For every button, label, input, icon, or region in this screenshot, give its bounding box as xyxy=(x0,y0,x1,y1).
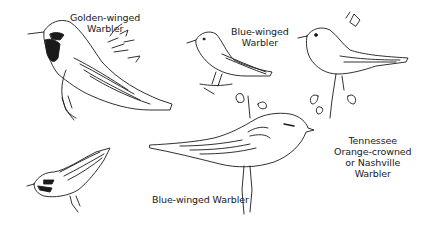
warbler-illustration-plate: Golden-winged Warbler Blue-winged Warble… xyxy=(0,0,434,243)
label-line: Warbler xyxy=(70,23,140,34)
label-line: Warbler xyxy=(231,37,289,48)
label-line: Golden-winged xyxy=(70,12,140,23)
tennessee-warbler-label: Tennessee Orange-crowned or Nashville Wa… xyxy=(334,135,412,179)
blue-winged-warbler-bottom-label: Blue-winged Warbler xyxy=(152,194,249,205)
label-line: Blue-winged xyxy=(231,26,289,37)
warbler-line-drawings xyxy=(0,0,434,243)
tennessee-warbler-drawing xyxy=(298,12,408,118)
small-golden-winged-warbler-drawing xyxy=(27,148,110,212)
golden-winged-warbler-label: Golden-winged Warbler xyxy=(70,12,140,34)
label-line: Orange-crowned xyxy=(334,146,412,157)
label-line: Tennessee xyxy=(334,135,412,146)
label-line: Warbler xyxy=(334,168,412,179)
label-line: or Nashville xyxy=(334,157,412,168)
golden-winged-warbler-drawing xyxy=(28,20,172,120)
blue-winged-warbler-top-label: Blue-winged Warbler xyxy=(231,26,289,48)
